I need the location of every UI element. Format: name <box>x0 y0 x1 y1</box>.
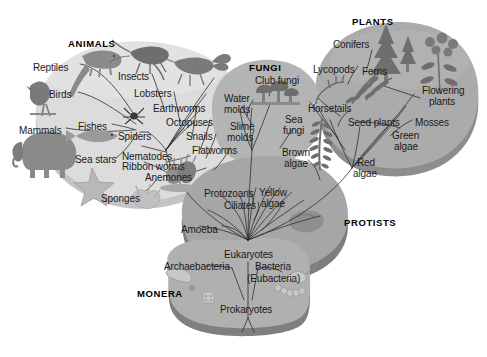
taxon-label-sea-fungi: fungi <box>283 126 304 137</box>
taxon-label-anemones: Anemones <box>145 173 192 184</box>
kingdom-label-animals: ANIMALS <box>68 38 115 49</box>
taxon-label-water: Water <box>224 94 250 105</box>
taxon-label-slime-molds: molds <box>227 133 253 144</box>
taxon-label-brown-algae: algae <box>284 159 308 170</box>
taxon-label-green-algae: algae <box>394 142 418 153</box>
taxon-label-ferns: Ferns <box>362 67 387 78</box>
taxon-label-green: Green <box>392 131 419 142</box>
taxon-label-octopuses: Octopuses <box>166 118 213 129</box>
taxon-label-eukaryotes: Eukaryotes <box>224 250 273 261</box>
taxon-label-horsetails: Horsetails <box>308 104 351 115</box>
taxon-label-sponges: Sponges <box>101 194 140 205</box>
taxon-label-conifers: Conifers <box>333 40 369 51</box>
taxon-label-lobsters: Lobsters <box>134 89 172 100</box>
taxon-label-flatworms: Flatworms <box>192 146 237 157</box>
taxon-label-insects: Insects <box>118 72 149 83</box>
taxon-label-protozoans: Protozoans <box>204 189 254 200</box>
taxon-label-spiders: Spiders <box>118 132 151 143</box>
taxon-label-archaebacteria: Archaebacteria <box>164 262 230 273</box>
taxon-label-ciliates: Ciliates <box>224 201 256 212</box>
taxon-label-red-algae: algae <box>353 169 377 180</box>
taxon-label-ribbon-worms: Ribbon worms <box>122 162 185 173</box>
taxon-label-seed-plants: Seed plants <box>348 118 400 129</box>
taxon-label-slime: Slime <box>230 122 255 133</box>
taxon-label-lycopods: Lycopods <box>313 65 355 76</box>
taxon-label-water-molds: molds <box>224 105 250 116</box>
tree-of-life-diagram: ANIMALS FUNGI PLANTS PROTISTS MONERA Rep… <box>0 0 487 357</box>
taxon-label-bacteria: Bacteria <box>255 262 291 273</box>
taxon-label-flowering-plants: plants <box>429 97 455 108</box>
kingdom-label-protists: PROTISTS <box>344 217 396 228</box>
taxon-label-red: Red <box>357 158 375 169</box>
kingdom-label-fungi: FUNGI <box>249 62 282 73</box>
taxon-label-fishes: Fishes <box>78 122 107 133</box>
taxon-label-yellow: Yellow <box>259 188 287 199</box>
taxon-label-flowering: Flowering <box>422 86 464 97</box>
taxon-label-birds: Birds <box>49 90 71 101</box>
taxon-label-club-fungi: Club fungi <box>255 76 299 87</box>
taxon-label-prokaryotes: Prokaryotes <box>220 305 272 316</box>
taxon-label-sea-stars: Sea stars <box>75 155 116 166</box>
taxon-label-amoeba: Amoeba <box>181 225 218 236</box>
taxon-label-eubacteria: (Eubacteria) <box>247 274 300 285</box>
taxon-label-brown: Brown <box>282 148 310 159</box>
taxon-label-snails: Snails <box>186 132 213 143</box>
kingdom-label-monera: MONERA <box>137 288 183 299</box>
kingdom-label-plants: PLANTS <box>352 16 394 27</box>
taxon-label-reptiles: Reptiles <box>33 63 68 74</box>
taxon-label-mosses: Mosses <box>415 118 449 129</box>
taxon-label-mammals: Mammals <box>19 126 62 137</box>
taxon-label-yellow-algae: algae <box>261 199 285 210</box>
brown-algae-kelp-art <box>309 118 334 170</box>
taxon-label-earthworms: Earthworms <box>153 104 205 115</box>
taxon-label-sea: Sea <box>285 115 303 126</box>
